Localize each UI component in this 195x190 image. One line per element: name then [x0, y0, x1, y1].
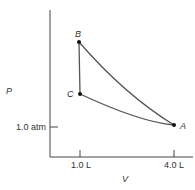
path-a-to-b	[79, 42, 174, 125]
y-axis-label: P	[6, 86, 12, 96]
pv-diagram: B C A P V 1.0 atm 1.0 L 4.0 L	[0, 0, 195, 190]
point-label-b: B	[75, 29, 81, 39]
x-tick-label-4L: 4.0 L	[164, 160, 184, 170]
path-c-to-a	[80, 94, 174, 125]
x-axis-label: V	[122, 174, 129, 184]
y-tick-label: 1.0 atm	[16, 122, 46, 132]
path-b-to-c	[79, 42, 80, 94]
point-label-c: C	[67, 89, 74, 99]
point-c	[78, 92, 82, 96]
x-tick-label-1L: 1.0 L	[71, 160, 91, 170]
point-a	[172, 123, 176, 127]
point-label-a: A	[179, 121, 186, 131]
point-b	[77, 40, 81, 44]
